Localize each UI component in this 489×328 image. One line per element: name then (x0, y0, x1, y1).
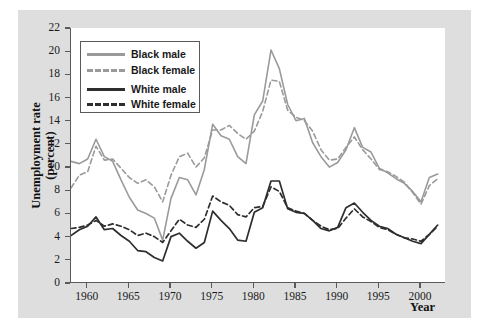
y-tick-label: 2 (38, 254, 60, 266)
series-line-white-male (71, 181, 438, 261)
y-tick-label: 18 (38, 68, 60, 80)
x-tick-label: 1985 (275, 291, 315, 303)
x-tick-mark (253, 283, 254, 288)
legend-entry: White male (87, 82, 199, 97)
figure-container: Unemployment rate (percent) 024681012141… (0, 0, 489, 328)
y-tick-label: 12 (38, 138, 60, 150)
x-tick-label: 1990 (317, 291, 357, 303)
legend-label: White female (131, 97, 196, 112)
chart-legend: Black maleBlack femaleWhite maleWhite fe… (80, 41, 200, 113)
x-tick-label: 1975 (192, 291, 232, 303)
x-tick-label: 1960 (67, 291, 107, 303)
legend-label: Black male (131, 47, 186, 62)
legend-swatch-icon (87, 103, 125, 106)
x-tick-mark (169, 283, 170, 288)
x-tick-label: 1995 (358, 291, 398, 303)
y-tick-label: 8 (38, 184, 60, 196)
legend-swatch-icon (87, 53, 125, 56)
y-tick-label: 14 (38, 115, 60, 127)
y-tick-label: 6 (38, 207, 60, 219)
x-tick-mark (211, 283, 212, 288)
legend-entry: White female (87, 97, 199, 112)
y-tick-label: 0 (38, 277, 60, 289)
x-tick-mark (86, 283, 87, 288)
legend-entry: Black male (87, 47, 199, 62)
x-tick-mark (336, 283, 337, 288)
x-tick-label: 1965 (108, 291, 148, 303)
legend-swatch-icon (87, 88, 125, 91)
x-tick-label: 1980 (233, 291, 273, 303)
x-tick-label: 1970 (150, 291, 190, 303)
y-tick-label: 22 (38, 22, 60, 34)
y-tick-label: 20 (38, 45, 60, 57)
x-tick-mark (419, 283, 420, 288)
x-axis-title: Year (410, 300, 435, 315)
x-tick-mark (378, 283, 379, 288)
legend-label: Black female (131, 63, 195, 78)
y-tick-label: 4 (38, 231, 60, 243)
legend-label: White male (131, 82, 186, 97)
legend-entry: Black female (87, 63, 199, 78)
x-tick-mark (128, 283, 129, 288)
legend-swatch-icon (87, 69, 125, 72)
y-tick-label: 10 (38, 161, 60, 173)
y-tick-label: 16 (38, 92, 60, 104)
x-tick-mark (294, 283, 295, 288)
